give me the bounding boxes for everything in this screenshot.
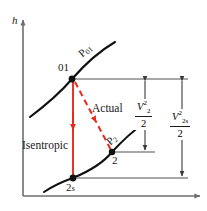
process-group xyxy=(73,81,111,177)
state-point-group xyxy=(69,76,116,182)
dimension-label-v2s-numerator: V22s xyxy=(170,110,190,127)
dimension-label-v2-denominator: 2 xyxy=(135,117,152,129)
state-point-label-2: 2 xyxy=(112,155,118,166)
dimension-label-v2s-denominator: 2 xyxy=(170,127,190,139)
dimension-label-v2s: V22s 2 xyxy=(168,109,192,140)
state-point-01-marker xyxy=(69,76,76,83)
state-point-label-2s-sub: s xyxy=(72,183,76,193)
dimension-label-v2-var: V xyxy=(137,101,143,112)
y-axis-label: h xyxy=(12,15,18,26)
state-point-label-01: 01 xyxy=(58,62,69,73)
isentropic-process-label: Isentropic xyxy=(22,140,68,152)
dimension-label-v2s-var: V xyxy=(172,111,178,122)
dimension-label-v2-numerator: V22 xyxy=(135,100,152,117)
pressure-curve-group xyxy=(30,42,143,192)
dimension-label-v2s-sub: 2s xyxy=(182,117,188,125)
actual-process-label: Actual xyxy=(92,103,123,115)
dimension-label-v2-sub: 2 xyxy=(147,107,151,115)
dimension-label-v2: V22 2 xyxy=(133,99,154,130)
pressure-curve-p2 xyxy=(44,124,143,192)
hs-diagram-figure: h 01 2 2s P01 P2 Isentropic Actual V22 2… xyxy=(0,0,207,211)
state-point-label-2s: 2s xyxy=(66,182,75,193)
